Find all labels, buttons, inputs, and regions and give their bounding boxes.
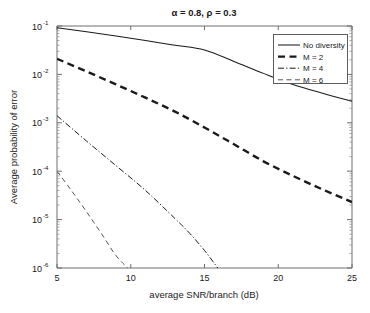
y-tick-label: 10	[32, 167, 42, 177]
y-tick-label: 10	[32, 22, 42, 32]
y-tick-exponent: -2	[43, 67, 49, 74]
y-tick-exponent: -3	[43, 115, 49, 122]
chart-canvas: α = 0.8, ρ = 0.3 510152025 10-110-210-31…	[0, 0, 370, 313]
x-tick-label: 15	[199, 273, 209, 283]
legend-label: M = 4	[303, 64, 324, 73]
series-line	[57, 116, 218, 268]
legend-label: M = 2	[303, 53, 324, 62]
y-tick-label: 10	[32, 264, 42, 274]
x-tick-label: 10	[126, 273, 136, 283]
chart-title: α = 0.8, ρ = 0.3	[171, 7, 236, 18]
x-tick-label: 25	[347, 273, 357, 283]
y-tick-exponent: -4	[43, 164, 49, 171]
series-line	[57, 171, 128, 268]
figure-container: α = 0.8, ρ = 0.3 510152025 10-110-210-31…	[0, 0, 370, 313]
x-axis-label: average SNR/branch (dB)	[149, 289, 258, 300]
legend-label: No diversity	[303, 41, 345, 50]
y-tick-exponent: -6	[43, 261, 49, 268]
x-tick-label: 20	[273, 273, 283, 283]
y-axis-label: Average probability of error	[8, 90, 19, 204]
x-tick-label: 5	[54, 273, 59, 283]
legend-label: M = 6	[303, 76, 324, 85]
y-tick-label: 10	[32, 70, 42, 80]
y-tick-exponent: -1	[43, 19, 49, 26]
y-tick-label: 10	[32, 215, 42, 225]
y-tick-label: 10	[32, 118, 42, 128]
legend: No diversityM = 2M = 4M = 6	[274, 35, 348, 85]
y-tick-exponent: -5	[43, 212, 49, 219]
